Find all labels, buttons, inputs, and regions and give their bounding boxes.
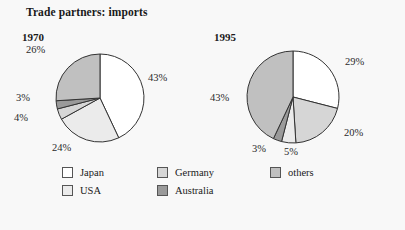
pie-value-label-1995-australia: 3% [252, 143, 266, 154]
pie-value-label-1970-australia: 3% [16, 92, 30, 103]
legend-item-usa[interactable]: USA [62, 185, 101, 196]
pie-value-label-1970-germany: 4% [14, 112, 28, 123]
legend-label-usa: USA [80, 185, 101, 196]
legend-swatch-others [270, 167, 281, 178]
chart-page: Trade partners: imports 1970 1995 43%24%… [0, 0, 405, 230]
legend: Japan USA Germany Australia others [62, 167, 362, 207]
legend-label-others: others [288, 167, 314, 178]
pie-value-label-1970-others: 26% [26, 44, 45, 55]
legend-swatch-usa [62, 185, 73, 196]
pie-value-label-1995-germany: 20% [344, 127, 363, 138]
legend-label-japan: Japan [80, 167, 104, 178]
pie-value-label-1995-usa: 5% [284, 146, 298, 157]
pie-value-label-1995-japan: 29% [345, 56, 364, 67]
legend-item-germany[interactable]: Germany [157, 167, 214, 178]
pie-value-label-1970-usa: 24% [52, 142, 71, 153]
legend-item-japan[interactable]: Japan [62, 167, 104, 178]
pie-chart-1970 [56, 54, 144, 142]
pie-value-label-1995-others: 43% [210, 92, 229, 103]
legend-label-australia: Australia [175, 185, 214, 196]
legend-swatch-australia [157, 185, 168, 196]
legend-item-australia[interactable]: Australia [157, 185, 214, 196]
legend-item-others[interactable]: others [270, 167, 314, 178]
pie-chart-1995 [247, 51, 339, 143]
legend-swatch-japan [62, 167, 73, 178]
pie-slice-others[interactable] [56, 54, 100, 101]
legend-label-germany: Germany [175, 167, 214, 178]
legend-swatch-germany [157, 167, 168, 178]
pie-value-label-1970-japan: 43% [148, 72, 167, 83]
